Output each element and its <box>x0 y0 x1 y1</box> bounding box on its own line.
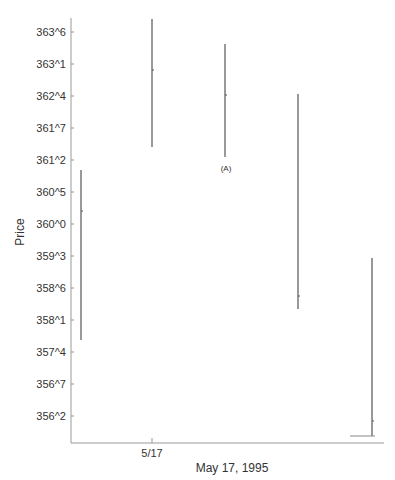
y-axis-label: Price <box>13 218 27 246</box>
bar-5 <box>350 258 375 436</box>
x-axis-label: May 17, 1995 <box>196 461 269 475</box>
y-tick-label: 358^6 <box>36 282 66 294</box>
y-tick-label: 361^2 <box>36 154 66 166</box>
bar-2 <box>152 19 154 147</box>
annotation-a: (A) <box>221 164 232 173</box>
bar-3 <box>225 44 227 157</box>
y-tick-label: 357^4 <box>36 346 66 358</box>
y-tick-label: 360^0 <box>36 218 66 230</box>
y-tick-label: 359^3 <box>36 250 66 262</box>
bar-1 <box>81 170 83 340</box>
y-tick-label: 358^1 <box>36 314 66 326</box>
y-tick-label: 356^2 <box>36 410 66 422</box>
bar-4 <box>298 94 300 309</box>
y-axis-ticks: 363^6363^1362^4361^7361^2360^5360^0359^3… <box>36 26 74 422</box>
x-tick-label: 5/17 <box>141 447 162 459</box>
y-tick-label: 356^7 <box>36 378 66 390</box>
y-tick-label: 362^4 <box>36 90 66 102</box>
y-tick-label: 363^1 <box>36 58 66 70</box>
y-tick-label: 361^7 <box>36 122 66 134</box>
y-tick-label: 363^6 <box>36 26 66 38</box>
y-tick-label: 360^5 <box>36 186 66 198</box>
price-range-chart: 363^6363^1362^4361^7361^2360^5360^0359^3… <box>0 0 395 480</box>
